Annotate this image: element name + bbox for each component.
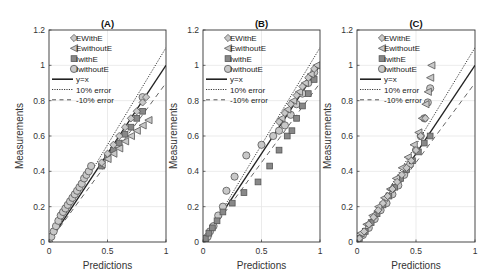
x-tick-label: 0.5 — [102, 246, 114, 256]
figure: 00.5100.20.40.60.811.2(A)PredictionsMeas… — [0, 0, 501, 280]
legend-label: -10% error — [76, 96, 114, 105]
legend-label: EwithoutE — [384, 44, 420, 53]
x-tick-label: 0 — [47, 246, 52, 256]
legend-label: IwithE — [230, 55, 252, 64]
y-tick-label: 0 — [40, 237, 45, 247]
x-tick-label: 0.5 — [410, 246, 422, 256]
x-axis-label: Predictions — [391, 260, 440, 271]
legend-label: EwithoutE — [76, 44, 112, 53]
y-tick-label: 0.2 — [33, 202, 45, 212]
x-tick-label: 1 — [318, 246, 323, 256]
y-tick-label: 0.2 — [187, 202, 199, 212]
y-axis-label: Measurements — [168, 103, 179, 169]
x-tick-label: 1 — [473, 246, 478, 256]
legend-label: 10% error — [384, 86, 419, 95]
panel-title: (C) — [409, 18, 422, 29]
y-tick-label: 0.8 — [341, 96, 353, 106]
y-tick-label: 1 — [40, 60, 45, 70]
y-tick-label: 0.8 — [187, 96, 199, 106]
legend-label: 10% error — [230, 86, 265, 95]
y-tick-label: 0.8 — [33, 96, 45, 106]
legend-label: IwithoutE — [76, 65, 109, 74]
legend-label: y=x — [384, 75, 397, 84]
y-tick-label: 1.2 — [187, 25, 199, 35]
panel-title: (B) — [255, 18, 268, 29]
legend-label: IwithoutE — [384, 65, 417, 74]
y-tick-label: 1 — [348, 60, 353, 70]
panel-b: 00.5100.20.40.60.811.2(B)PredictionsMeas… — [168, 18, 323, 271]
y-tick-label: 0 — [194, 237, 199, 247]
y-tick-label: 0 — [348, 237, 353, 247]
y-axis-label: Measurements — [14, 103, 25, 169]
x-tick-label: 0.5 — [256, 246, 268, 256]
legend-label: EWithE — [384, 34, 411, 43]
legend-label: IwithE — [76, 55, 98, 64]
legend-label: IwithE — [384, 55, 406, 64]
x-tick-label: 0 — [201, 246, 206, 256]
panel-a: 00.5100.20.40.60.811.2(A)PredictionsMeas… — [14, 18, 169, 271]
panel-c: 00.5100.20.40.60.811.2(C)PredictionsMeas… — [322, 18, 478, 271]
y-axis-label: Measurements — [322, 103, 333, 169]
legend-label: EWithE — [76, 34, 103, 43]
y-tick-label: 0.4 — [33, 166, 45, 176]
legend-label: y=x — [76, 75, 89, 84]
y-tick-label: 0.6 — [341, 131, 353, 141]
x-axis-label: Predictions — [83, 260, 132, 271]
y-tick-label: 0.2 — [341, 202, 353, 212]
y-tick-label: 0.6 — [187, 131, 199, 141]
x-axis-label: Predictions — [237, 260, 286, 271]
x-tick-label: 0 — [355, 246, 360, 256]
legend-label: 10% error — [76, 86, 111, 95]
legend-label: EWithE — [230, 34, 257, 43]
y-tick-label: 0.4 — [187, 166, 199, 176]
panel-title: (A) — [101, 18, 114, 29]
legend-label: -10% error — [230, 96, 268, 105]
x-tick-label: 1 — [164, 246, 169, 256]
legend-label: EwithoutE — [230, 44, 266, 53]
y-tick-label: 1.2 — [341, 25, 353, 35]
legend-label: IwithoutE — [230, 65, 263, 74]
y-tick-label: 0.6 — [33, 131, 45, 141]
y-tick-label: 1.2 — [33, 25, 45, 35]
y-tick-label: 0.4 — [341, 166, 353, 176]
legend-label: -10% error — [384, 96, 422, 105]
y-tick-label: 1 — [194, 60, 199, 70]
legend-label: y=x — [230, 75, 243, 84]
